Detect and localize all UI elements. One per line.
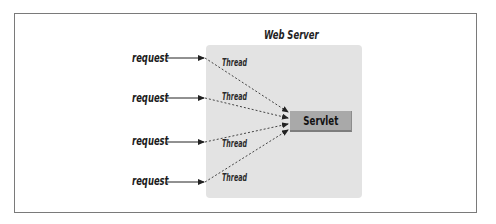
servlet-box: Servlet <box>290 111 352 132</box>
thread-label-3: Thread <box>222 138 247 149</box>
request-label-4: request <box>132 173 169 188</box>
request-label-2: request <box>132 90 169 105</box>
request-label-3: request <box>132 133 169 148</box>
thread-label-2: Thread <box>222 91 247 102</box>
request-label-1: request <box>132 50 169 65</box>
connector-lines <box>0 0 496 224</box>
thread-label-1: Thread <box>222 57 247 68</box>
thread-label-4: Thread <box>222 172 247 183</box>
servlet-label: Servlet <box>303 114 338 128</box>
